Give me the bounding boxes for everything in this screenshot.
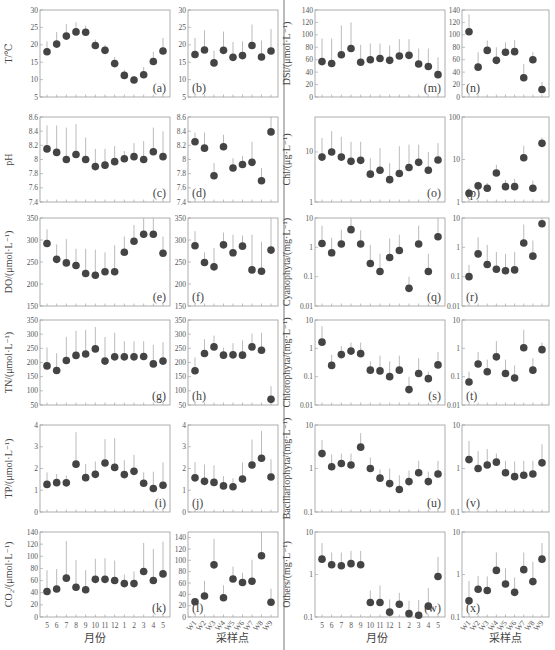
data-point: [82, 350, 90, 358]
data-point: [248, 343, 256, 351]
data-point: [502, 370, 510, 378]
data-point: [101, 357, 109, 365]
data-point: [150, 58, 158, 66]
y-tick-label: 100: [175, 386, 187, 395]
data-point: [121, 155, 129, 163]
panel-label: (t): [466, 389, 477, 403]
data-point: [201, 350, 209, 358]
y-tick-label: 30: [31, 6, 39, 15]
y-axis-label: TN/(μmol·L⁻¹): [3, 332, 15, 393]
data-point: [159, 47, 167, 55]
data-point: [159, 570, 167, 578]
data-point: [101, 459, 109, 467]
data-point: [258, 53, 266, 61]
data-point: [386, 373, 394, 381]
y-tick-label: 2: [182, 464, 186, 473]
x-tick-label: 11: [101, 621, 108, 630]
data-point: [239, 161, 247, 169]
data-point: [130, 468, 138, 476]
panel-l: 020406080100120140W1W2W3W4W5W6W7W8W9(l): [175, 532, 278, 633]
data-point: [502, 183, 510, 191]
data-point: [538, 140, 546, 148]
panel-label: (a): [153, 81, 166, 95]
data-point: [520, 566, 528, 574]
data-point: [405, 52, 413, 60]
y-tick-label: 30: [179, 6, 187, 15]
data-point: [483, 47, 491, 55]
data-point: [529, 470, 537, 478]
data-point: [511, 589, 519, 597]
data-point: [502, 469, 510, 477]
data-point: [210, 59, 218, 67]
data-point: [210, 561, 218, 569]
data-point: [210, 479, 218, 487]
data-point: [425, 63, 433, 71]
y-tick-label: 0: [182, 508, 186, 517]
data-point: [140, 71, 148, 79]
y-tick-label: 5: [34, 93, 38, 102]
data-point: [248, 42, 256, 50]
data-point: [318, 153, 326, 161]
y-tick-label: 7.8: [29, 169, 39, 178]
data-point: [267, 598, 275, 606]
data-point: [493, 353, 501, 361]
data-point: [43, 481, 51, 489]
data-point: [201, 478, 209, 486]
panel-label: (c): [153, 186, 166, 200]
data-point: [191, 474, 199, 482]
data-point: [386, 608, 394, 616]
y-tick-label: 0: [34, 613, 38, 622]
x-tick-label: 7: [339, 621, 343, 630]
y-axis-label: Chlorophyta/(mg·L⁻¹): [281, 318, 293, 408]
y-tick-label: 20: [179, 40, 187, 49]
data-point: [328, 362, 336, 370]
data-point: [367, 260, 375, 268]
data-point: [405, 285, 413, 293]
data-point: [386, 176, 394, 184]
data-point: [111, 60, 119, 68]
y-tick-label: 100: [175, 556, 187, 565]
data-point: [474, 360, 482, 368]
data-point: [92, 271, 100, 279]
data-point: [483, 587, 491, 595]
data-point: [434, 156, 442, 164]
y-tick-label: 0.1: [451, 272, 461, 281]
data-point: [502, 267, 510, 275]
x-tick-label: W9: [532, 618, 546, 632]
data-point: [529, 185, 537, 193]
data-point: [483, 461, 491, 469]
data-point: [220, 47, 228, 55]
y-tick-label: 120: [302, 18, 314, 27]
data-point: [248, 266, 256, 274]
data-point: [465, 28, 473, 36]
panel-g: 50100150200250300350TN/(μmol·L⁻¹)(g): [3, 316, 170, 410]
y-tick-label: 0.1: [304, 508, 314, 517]
data-point: [150, 360, 158, 368]
y-tick-label: 0.01: [300, 302, 313, 311]
data-point: [121, 580, 129, 588]
data-point: [425, 268, 433, 276]
data-point: [150, 485, 158, 493]
data-point: [82, 586, 90, 594]
y-axis-label: T/℃: [3, 43, 14, 63]
data-point: [201, 46, 209, 54]
x-tick-label: 2: [407, 621, 411, 630]
y-tick-label: 20: [306, 80, 314, 89]
panel-i: 01234TP/(μmol·L⁻¹)(i): [3, 421, 170, 517]
y-tick-label: 10: [306, 147, 314, 156]
y-axis-label: Others/(mg·L⁻¹): [281, 541, 293, 608]
data-point: [92, 576, 100, 584]
y-tick-label: 250: [27, 258, 39, 267]
y-tick-label: 8.2: [29, 141, 39, 150]
data-point: [318, 58, 326, 66]
data-point: [159, 153, 167, 161]
data-point: [43, 48, 51, 56]
data-point: [63, 32, 71, 40]
y-tick-label: 300: [175, 236, 187, 245]
data-point: [63, 259, 71, 267]
x-tick-label: W9: [261, 618, 275, 632]
data-point: [538, 555, 546, 563]
panel-label: (e): [153, 290, 166, 304]
data-point: [357, 350, 365, 358]
data-point: [53, 40, 61, 48]
